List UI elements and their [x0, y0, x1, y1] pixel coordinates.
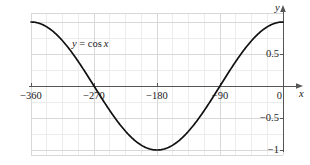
x-tick-label: −360 — [20, 91, 42, 102]
axis-lines — [29, 5, 303, 152]
y-axis-label: y — [275, 3, 280, 14]
curve-equation-label: y = cosx — [72, 39, 109, 50]
y-axis-arrowhead — [280, 5, 286, 12]
y-tick-label: −1 — [268, 145, 279, 156]
cosine-graph-figure: y = cosx x y −360−270−180−900 10.5−0.5−1 — [0, 0, 310, 165]
y-tick-label: −0.5 — [260, 113, 279, 124]
x-axis-label: x — [299, 89, 304, 100]
x-tick-label: −90 — [212, 91, 228, 102]
equation-function-cos: cos — [88, 38, 102, 49]
y-tick-label: 0.5 — [266, 49, 279, 60]
x-tick-label: −180 — [146, 91, 168, 102]
x-tick-label: 0 — [277, 91, 282, 102]
x-tick-label: −270 — [83, 91, 105, 102]
plot-canvas — [0, 0, 310, 165]
equation-variable-x: x — [104, 38, 109, 49]
equation-equals: = — [77, 38, 88, 49]
